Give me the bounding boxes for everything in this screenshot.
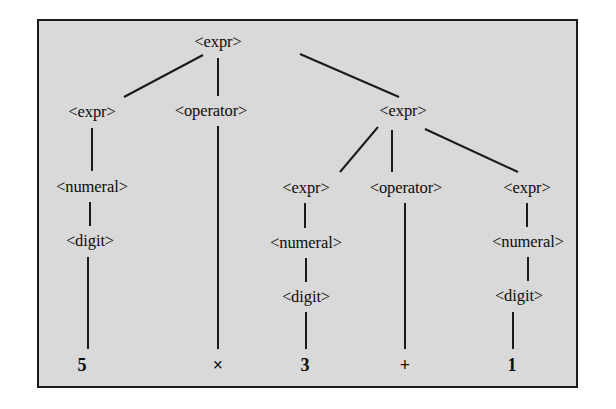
figure-canvas: <expr> <expr> <operator> <expr> <numeral… — [0, 0, 616, 409]
node-mid-digit: <digit> — [282, 289, 330, 306]
node-left-digit: <digit> — [66, 233, 114, 250]
terminal-five: 5 — [78, 356, 87, 374]
node-mid-expr: <expr> — [282, 180, 329, 197]
terminal-times: × — [213, 356, 223, 374]
node-rr-expr: <expr> — [503, 180, 550, 197]
figure-frame — [37, 19, 578, 388]
terminal-plus: + — [400, 356, 410, 374]
node-root-expr: <expr> — [194, 34, 241, 51]
node-rr-digit: <digit> — [495, 288, 543, 305]
terminal-three: 3 — [301, 356, 310, 374]
terminal-one: 1 — [508, 356, 517, 374]
node-top-operator: <operator> — [175, 103, 248, 120]
node-rr-numeral: <numeral> — [492, 234, 564, 251]
node-right-operator: <operator> — [370, 180, 443, 197]
node-left-numeral: <numeral> — [56, 179, 128, 196]
node-mid-numeral: <numeral> — [270, 235, 342, 252]
node-left-expr: <expr> — [68, 104, 115, 121]
node-right-expr: <expr> — [379, 103, 426, 120]
